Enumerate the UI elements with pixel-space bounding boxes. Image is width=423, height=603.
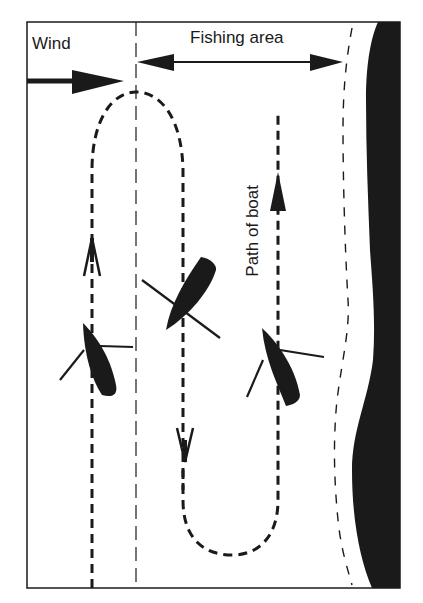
boat-right-icon bbox=[247, 328, 324, 406]
wind-label: Wind bbox=[32, 34, 71, 54]
shore-landmass bbox=[352, 22, 400, 588]
boat-upwind-left-icon bbox=[60, 323, 133, 396]
boat-center-icon bbox=[142, 257, 220, 338]
path-of-boat-label: Path of boat bbox=[243, 185, 263, 277]
boat-path-upper-loop bbox=[92, 92, 183, 588]
fishing-diagram bbox=[0, 0, 423, 603]
fishing-area-boundary-right bbox=[334, 28, 352, 585]
direction-arrow-solid-up-icon bbox=[270, 172, 286, 211]
wind-arrow-icon bbox=[27, 70, 124, 94]
fishing-area-arrow-icon bbox=[137, 54, 343, 71]
fishing-area-label: Fishing area bbox=[190, 28, 284, 48]
direction-arrow-down-icon bbox=[177, 428, 193, 462]
